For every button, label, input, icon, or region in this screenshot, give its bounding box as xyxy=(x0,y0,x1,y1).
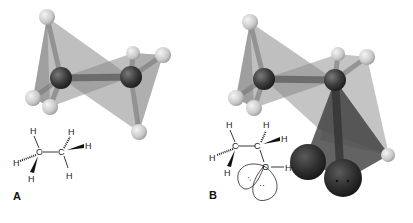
hydrogen-atom xyxy=(331,47,345,61)
atom-h: H xyxy=(30,126,37,136)
hydrogen-atom xyxy=(228,90,244,106)
ethanol-structural-formula: C C O H H H H H H ·· ·· xyxy=(209,120,292,201)
hydrogen-atom xyxy=(126,46,140,60)
wedge-bond xyxy=(67,144,84,150)
lone-pair-lobe xyxy=(290,144,326,180)
hydrogen-atom xyxy=(42,99,58,115)
panel-label-b: B xyxy=(209,189,217,201)
bond-line xyxy=(260,150,264,162)
atom-h: H xyxy=(285,163,292,173)
lone-pair: ·· xyxy=(259,180,265,190)
atom-h: H xyxy=(85,141,92,151)
co-bond xyxy=(335,80,340,165)
atom-h: H xyxy=(209,153,216,163)
wedge-bond xyxy=(227,150,235,167)
atom-c2: C xyxy=(58,147,65,157)
ethanol-3d-model xyxy=(228,14,395,197)
atom-h: H xyxy=(68,127,75,137)
atom-h: H xyxy=(281,134,288,144)
atom-c1: C xyxy=(36,147,43,157)
carbon-atom xyxy=(120,66,142,88)
lone-pair-dot xyxy=(347,180,350,183)
wedge-bond xyxy=(30,156,38,173)
atom-h: H xyxy=(226,120,233,130)
atom-h: H xyxy=(263,120,270,130)
lone-pair-dot xyxy=(336,180,339,183)
hydrogen-atom xyxy=(359,49,375,65)
carbon-atom xyxy=(324,69,346,91)
atom-c2: C xyxy=(254,141,261,151)
hydrogen-atom xyxy=(131,124,147,140)
atom-c1: C xyxy=(232,141,239,151)
ethane-3d-model xyxy=(25,9,171,140)
hashed-bond xyxy=(20,155,36,161)
atom-o: O xyxy=(262,162,269,172)
atom-h: H xyxy=(66,171,73,181)
panel-label-a: A xyxy=(13,190,21,202)
atom-h: H xyxy=(13,158,20,168)
hashed-bond xyxy=(261,131,266,142)
hydrogen-atom xyxy=(25,90,41,106)
carbon-atom xyxy=(50,67,72,89)
hashed-bond xyxy=(64,137,70,148)
hydrogen-atom xyxy=(39,9,55,25)
lone-pair-lobe xyxy=(324,159,362,197)
hydrogen-atom xyxy=(242,14,258,30)
hydrogen-atom xyxy=(246,100,262,116)
wedge-bond xyxy=(263,137,280,144)
ethane-structural-formula: C C H H H H H H xyxy=(13,126,92,184)
hydrogen-atom xyxy=(155,47,171,63)
bond-line xyxy=(64,156,68,168)
hashed-bond xyxy=(217,149,233,155)
atom-h: H xyxy=(224,168,231,178)
hydrogen-atom xyxy=(381,148,395,162)
atom-h: H xyxy=(28,174,35,184)
figure-canvas: C C H H H H H H A xyxy=(0,0,413,223)
carbon-atom xyxy=(253,68,275,90)
